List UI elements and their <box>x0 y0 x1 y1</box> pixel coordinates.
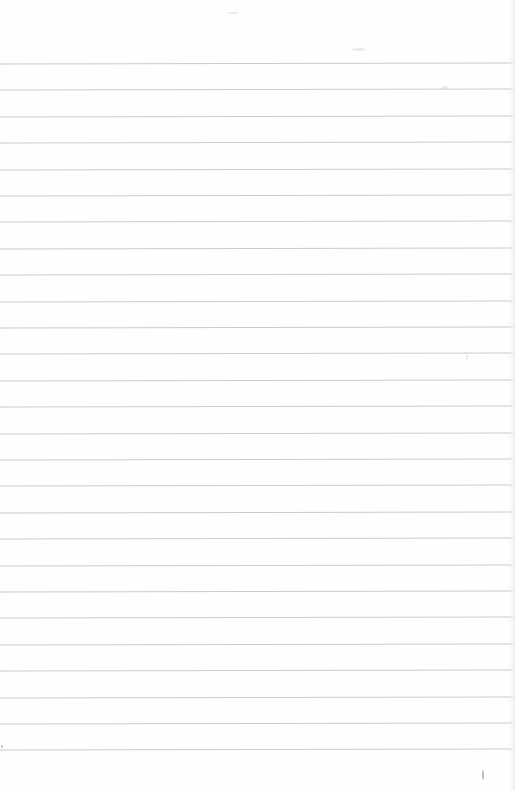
ruled-line <box>0 458 515 460</box>
smudge-mark <box>442 86 448 89</box>
ruled-line <box>0 590 515 592</box>
ruled-line <box>0 748 515 750</box>
lined-paper-sheet <box>0 0 515 790</box>
ruled-line <box>0 484 515 486</box>
smudge-mark <box>466 354 468 360</box>
ruled-line <box>0 696 515 698</box>
ruled-line <box>0 62 515 64</box>
ruled-line <box>0 722 515 724</box>
ruled-line <box>0 115 515 117</box>
ruled-line <box>0 247 515 249</box>
ruled-line <box>0 379 515 381</box>
ruled-line <box>0 405 515 407</box>
smudge-mark <box>228 12 238 14</box>
smudge-mark <box>1 745 3 748</box>
ruled-line <box>0 168 515 170</box>
paper-edge-shadow <box>509 0 515 790</box>
ruled-line <box>0 669 515 671</box>
ruled-line <box>0 141 515 143</box>
ruled-line <box>0 432 515 434</box>
ruled-line <box>0 616 515 618</box>
smudge-mark <box>352 48 366 51</box>
ruled-line <box>0 300 515 302</box>
ruled-line <box>0 326 515 328</box>
ruled-line <box>0 537 515 539</box>
ruled-line <box>0 220 515 222</box>
smudge-mark <box>482 770 484 780</box>
ruled-line <box>0 88 515 90</box>
ruled-line <box>0 643 515 645</box>
ruled-line <box>0 273 515 275</box>
ruled-line <box>0 194 515 196</box>
ruled-line <box>0 511 515 513</box>
ruled-line <box>0 564 515 566</box>
ruled-line <box>0 352 515 354</box>
